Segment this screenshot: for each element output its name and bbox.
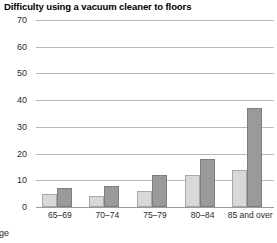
gridline-0 bbox=[36, 207, 274, 208]
y-tick-label-10: 10 bbox=[0, 176, 27, 185]
bar[interactable] bbox=[152, 175, 167, 207]
chart-title: Difficulty using a vacuum cleaner to flo… bbox=[4, 1, 191, 13]
bar-group bbox=[232, 20, 262, 207]
bar[interactable] bbox=[200, 159, 215, 207]
bar[interactable] bbox=[232, 170, 247, 207]
bar[interactable] bbox=[57, 188, 72, 207]
bar-group bbox=[89, 20, 119, 207]
x-axis-title: Age bbox=[0, 228, 9, 238]
bar[interactable] bbox=[137, 191, 152, 207]
bar-group bbox=[42, 20, 72, 207]
bar[interactable] bbox=[247, 108, 262, 207]
y-tick-label-50: 50 bbox=[0, 69, 27, 78]
bar[interactable] bbox=[42, 194, 57, 207]
y-tick-label-70: 70 bbox=[0, 16, 27, 25]
bar-groups bbox=[36, 20, 274, 207]
y-tick-label-30: 30 bbox=[0, 123, 27, 132]
bar[interactable] bbox=[104, 186, 119, 207]
x-tick-label: 85 and over bbox=[220, 211, 277, 220]
plot-area: 010203040506070 bbox=[36, 20, 274, 207]
chart-container: Difficulty using a vacuum cleaner to flo… bbox=[0, 0, 277, 243]
bar[interactable] bbox=[89, 196, 104, 207]
bar[interactable] bbox=[185, 175, 200, 207]
y-tick-label-60: 60 bbox=[0, 43, 27, 52]
bar-group bbox=[137, 20, 167, 207]
y-tick-label-20: 20 bbox=[0, 150, 27, 159]
y-tick-label-40: 40 bbox=[0, 96, 27, 105]
y-tick-label-0: 0 bbox=[0, 203, 27, 212]
bar-group bbox=[185, 20, 215, 207]
